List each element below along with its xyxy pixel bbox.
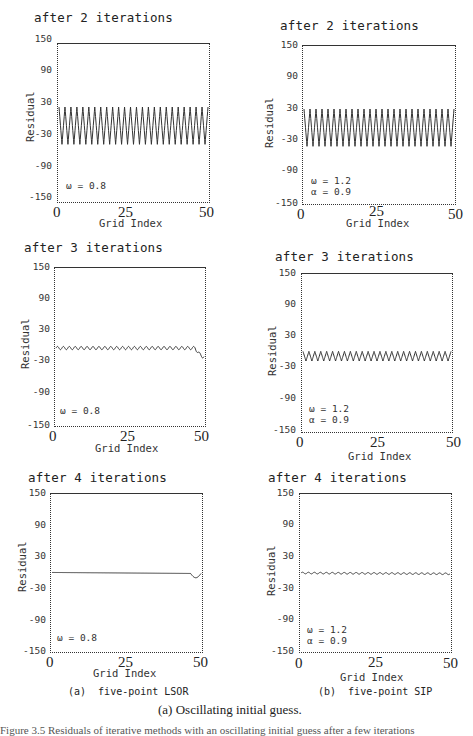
- residual-curve: [54, 267, 206, 427]
- y-tick: -150: [20, 419, 50, 430]
- x-axis-label: Grid Index: [346, 217, 409, 229]
- x-tick: 50: [446, 434, 461, 451]
- y-tick: 90: [264, 518, 294, 529]
- residual-curve: [57, 43, 210, 203]
- x-axis-label: Grid Index: [99, 217, 162, 229]
- figure-caption: (a) Oscillating initial guess.: [158, 702, 302, 718]
- y-tick: -150: [264, 645, 294, 656]
- x-axis-label: Grid Index: [93, 667, 156, 679]
- x-axis-label: Grid Index: [340, 671, 403, 683]
- x-tick: 0: [295, 655, 303, 672]
- subcaption-lsor: (a) five-point LSOR: [68, 686, 188, 697]
- x-tick: 50: [199, 204, 214, 221]
- y-tick: -90: [268, 164, 298, 175]
- x-axis-label: Grid Index: [348, 450, 411, 462]
- y-tick: 90: [266, 298, 296, 309]
- y-axis-label: Residual: [263, 97, 275, 148]
- x-tick: 0: [53, 204, 61, 221]
- chart-title: after 2 iterations: [280, 18, 419, 33]
- y-tick: -150: [268, 197, 298, 208]
- y-tick: 150: [22, 33, 52, 44]
- y-tick: 90: [268, 70, 298, 81]
- y-tick: -150: [16, 645, 46, 656]
- y-tick: 150: [264, 487, 294, 498]
- y-tick: 90: [20, 292, 50, 303]
- chart-title: after 4 iterations: [268, 470, 407, 485]
- y-tick: -150: [266, 424, 296, 435]
- chart-title: after 3 iterations: [275, 249, 414, 264]
- chart-title: after 3 iterations: [24, 240, 163, 255]
- chart-title: after 2 iterations: [34, 10, 173, 25]
- residual-curve: [299, 493, 452, 653]
- x-tick: 0: [49, 428, 57, 445]
- y-tick: 90: [22, 64, 52, 75]
- y-tick: -150: [22, 191, 52, 202]
- y-tick: -90: [266, 392, 296, 403]
- y-tick: 150: [20, 261, 50, 272]
- residual-curve: [50, 493, 203, 653]
- y-tick: 150: [16, 487, 46, 498]
- x-tick: 0: [296, 434, 304, 451]
- truncated-body-text: Figure 3.5 Residuals of iterative method…: [0, 724, 415, 736]
- y-tick: -90: [20, 386, 50, 397]
- y-axis-label: Residual: [266, 325, 278, 376]
- x-tick: 50: [194, 428, 209, 445]
- x-tick: 25: [370, 434, 385, 451]
- y-tick: -90: [264, 613, 294, 624]
- y-tick: 150: [266, 267, 296, 278]
- y-tick: 90: [16, 519, 46, 530]
- x-tick: 50: [193, 654, 208, 671]
- residual-curve: [302, 45, 456, 205]
- y-axis-label: Residual: [24, 91, 36, 142]
- y-axis-label: Residual: [16, 541, 28, 592]
- x-tick: 50: [443, 655, 458, 672]
- y-tick: 150: [268, 39, 298, 50]
- y-tick: -90: [22, 160, 52, 171]
- residual-curve: [301, 273, 453, 433]
- subcaption-sip: (b) five-point SIP: [318, 686, 432, 697]
- x-tick: 0: [46, 654, 54, 671]
- y-axis-label: Residual: [19, 318, 31, 369]
- x-axis-label: Grid Index: [95, 442, 158, 454]
- x-tick: 0: [297, 206, 305, 223]
- x-tick: 25: [368, 654, 383, 671]
- x-tick: 50: [448, 206, 463, 223]
- y-axis-label: Residual: [265, 545, 277, 596]
- chart-title: after 4 iterations: [28, 470, 167, 485]
- y-tick: -90: [16, 614, 46, 625]
